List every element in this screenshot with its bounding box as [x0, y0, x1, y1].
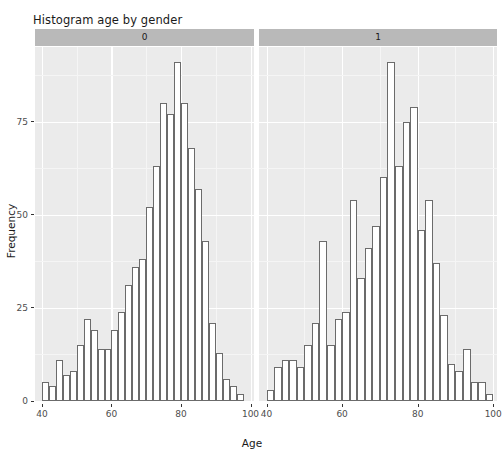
x-tick-mark	[181, 404, 182, 407]
x-axis-left: 406080100	[35, 401, 254, 425]
histogram-bar	[118, 312, 125, 401]
facet-strip-left: 0	[35, 29, 254, 46]
x-tick-label: 80	[175, 409, 186, 419]
gridline-minor-horizontal	[35, 75, 254, 76]
histogram-bar	[403, 122, 411, 401]
histogram-plot: Histogram age by gender Frequency Age 02…	[0, 0, 504, 461]
x-tick-label: 60	[336, 409, 347, 419]
y-axis: 0255075	[0, 0, 35, 461]
histogram-bar	[410, 107, 418, 401]
gridline-major-vertical	[493, 47, 494, 401]
x-tick-label: 100	[242, 409, 259, 419]
y-tick-label: 0	[6, 396, 28, 406]
histogram-bar	[282, 360, 290, 401]
histogram-bar	[289, 360, 297, 401]
histogram-bar	[111, 330, 118, 401]
histogram-bar	[365, 248, 373, 401]
histogram-bar	[372, 226, 380, 401]
histogram-bar	[42, 382, 49, 401]
histogram-bar	[418, 230, 426, 401]
gridline-major-horizontal	[259, 215, 497, 216]
histogram-bar	[98, 349, 105, 401]
x-axis-right: 406080100	[259, 401, 497, 425]
y-tick-mark	[31, 214, 34, 215]
facet-strip-right: 1	[259, 29, 497, 46]
histogram-bar	[230, 386, 237, 401]
y-tick-mark	[31, 121, 34, 122]
histogram-bar	[440, 315, 448, 401]
y-tick-mark	[31, 307, 34, 308]
histogram-bar	[160, 103, 167, 401]
gridline-major-horizontal	[35, 215, 254, 216]
histogram-bar	[77, 345, 84, 401]
x-tick-mark	[342, 404, 343, 407]
histogram-bar	[167, 114, 174, 401]
histogram-bar	[84, 319, 91, 401]
histogram-bar	[304, 345, 312, 401]
histogram-bar	[312, 323, 320, 401]
panel-right	[259, 47, 497, 401]
histogram-bar	[335, 319, 343, 401]
histogram-bar	[188, 148, 195, 401]
histogram-bar	[478, 382, 486, 401]
histogram-bar	[56, 360, 63, 401]
histogram-bar	[223, 379, 230, 401]
gridline-minor-horizontal	[259, 168, 497, 169]
histogram-bar	[486, 394, 494, 401]
facet-strip-left-label: 0	[142, 33, 148, 42]
gridline-minor-vertical	[216, 47, 217, 401]
histogram-bar	[202, 241, 209, 401]
histogram-bar	[425, 200, 433, 401]
histogram-bar	[91, 330, 98, 401]
histogram-bar	[297, 367, 305, 401]
gridline-minor-horizontal	[259, 75, 497, 76]
gridline-major-vertical	[42, 47, 43, 401]
histogram-bar	[387, 62, 395, 401]
histogram-bar	[139, 259, 146, 401]
x-tick-mark	[111, 404, 112, 407]
x-tick-mark	[493, 404, 494, 407]
x-tick-label: 60	[106, 409, 117, 419]
x-tick-mark	[418, 404, 419, 407]
gridline-minor-horizontal	[35, 168, 254, 169]
histogram-bar	[70, 371, 77, 401]
histogram-bar	[471, 382, 479, 401]
histogram-bar	[63, 375, 70, 401]
histogram-bar	[448, 364, 456, 401]
x-tick-mark	[42, 404, 43, 407]
y-tick-mark	[31, 401, 34, 402]
page-title: Histogram age by gender	[33, 13, 182, 27]
histogram-bar	[181, 103, 188, 401]
histogram-bar	[395, 166, 403, 401]
histogram-bar	[209, 323, 216, 401]
x-tick-mark	[251, 404, 252, 407]
histogram-bar	[125, 285, 132, 401]
histogram-bar	[350, 200, 358, 401]
y-tick-label: 25	[6, 303, 28, 313]
x-axis-title: Age	[0, 437, 504, 449]
facet-strip-right-label: 1	[375, 33, 381, 42]
gridline-major-vertical	[251, 47, 252, 401]
histogram-bar	[267, 390, 275, 401]
histogram-bar	[174, 62, 181, 401]
gridline-major-vertical	[267, 47, 268, 401]
histogram-bar	[357, 278, 365, 401]
x-tick-label: 40	[261, 409, 272, 419]
histogram-bar	[463, 349, 471, 401]
gridline-major-horizontal	[35, 122, 254, 123]
y-tick-label: 75	[6, 117, 28, 127]
histogram-bar	[216, 353, 223, 401]
panel-left	[35, 47, 254, 401]
x-tick-mark	[267, 404, 268, 407]
x-tick-label: 100	[485, 409, 502, 419]
histogram-bar	[455, 371, 463, 401]
histogram-bar	[327, 345, 335, 401]
histogram-bar	[319, 241, 327, 401]
histogram-bar	[433, 263, 441, 401]
histogram-bar	[274, 367, 282, 401]
x-tick-label: 80	[412, 409, 423, 419]
histogram-bar	[380, 177, 388, 401]
histogram-bar	[153, 166, 160, 401]
histogram-bar	[132, 267, 139, 401]
histogram-bar	[49, 386, 56, 401]
